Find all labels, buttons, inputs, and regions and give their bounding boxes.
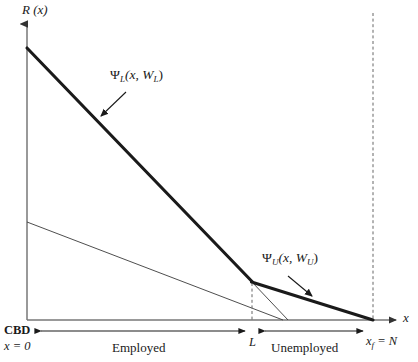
employed-label-arrow <box>101 92 126 116</box>
kink-tick-label: L <box>249 336 256 349</box>
psi-glyph-employed: Ψ <box>110 67 120 82</box>
fringe-equals-n: = N <box>374 334 397 348</box>
unemployed-bid-rent-label: ΨU(x, WU) <box>262 251 318 267</box>
employed-bid-rent-label: ΨL(x, WL) <box>110 68 163 84</box>
psi-args-unemployed: (x, W <box>278 250 306 265</box>
fringe-tick-label: xf = N <box>366 335 397 350</box>
figure-canvas <box>0 0 418 362</box>
paren-close-employed: ) <box>158 67 163 82</box>
paren-close-unemployed: ) <box>313 250 318 265</box>
x-axis-label: x <box>403 311 409 324</box>
psi-glyph-unemployed: Ψ <box>262 250 272 265</box>
unemployed-region-label: Unemployed <box>271 341 338 354</box>
y-axis-label: R (x) <box>22 3 48 16</box>
unemployed-bid-rent-thin-extension <box>27 222 283 320</box>
cbd-label: CBD <box>4 324 30 337</box>
psi-args-employed: (x, W <box>125 67 153 82</box>
employed-region-label: Employed <box>112 341 165 354</box>
origin-label: x = 0 <box>4 340 30 353</box>
bid-rent-figure: R (x) x ΨL(x, WL) ΨU(x, WU) CBD x = 0 L … <box>0 0 418 362</box>
